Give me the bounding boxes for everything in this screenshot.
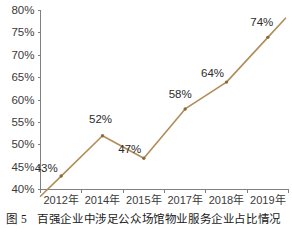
caption-number: 图 5 xyxy=(6,210,27,226)
y-tick-label: 65% xyxy=(11,71,34,83)
y-tick-label: 55% xyxy=(11,116,34,128)
data-series xyxy=(41,18,286,196)
data-label: 58% xyxy=(169,88,192,100)
data-labels: 43%52%47%58%64%74% xyxy=(35,16,274,174)
data-label: 47% xyxy=(118,143,141,155)
y-tick-label: 45% xyxy=(11,161,34,173)
y-tick-label: 80% xyxy=(11,4,34,16)
caption-text: 百强企业中涉足公众场馆物业服务企业占比情况 xyxy=(37,210,281,226)
x-tick-label: 2017年 xyxy=(167,193,202,206)
figure-caption: 图 5 百强企业中涉足公众场馆物业服务企业占比情况 xyxy=(0,206,292,229)
data-label: 43% xyxy=(35,162,58,174)
x-tick-labels: 2012年2014年2015年2017年2018年2019年 xyxy=(43,193,285,206)
data-point xyxy=(225,80,228,83)
data-point xyxy=(101,134,104,137)
x-tick-label: 2019年 xyxy=(250,193,285,206)
data-point xyxy=(183,107,186,110)
y-tick-label: 40% xyxy=(11,183,34,195)
figure-container: 40%45%50%55%60%65%70%75%80% 43%52%47%58%… xyxy=(0,0,292,229)
x-tick-label: 2015年 xyxy=(126,193,161,206)
x-tick-label: 2018年 xyxy=(209,193,244,206)
data-point xyxy=(59,174,62,177)
series-line xyxy=(41,18,286,196)
y-tick-label: 70% xyxy=(11,49,34,61)
x-axis xyxy=(41,190,289,194)
data-point xyxy=(266,36,269,39)
data-point xyxy=(142,156,145,159)
line-chart: 40%45%50%55%60%65%70%75%80% 43%52%47%58%… xyxy=(0,0,292,206)
data-label: 52% xyxy=(89,113,112,125)
x-tick-label: 2012年 xyxy=(43,193,78,206)
data-markers xyxy=(59,36,269,178)
chart-svg: 40%45%50%55%60%65%70%75%80% 43%52%47%58%… xyxy=(0,0,292,206)
x-tick-label: 2014年 xyxy=(85,193,120,206)
y-tick-label: 60% xyxy=(11,94,34,106)
y-tick-label: 75% xyxy=(11,26,34,38)
y-tick-label: 50% xyxy=(11,138,34,150)
data-label: 74% xyxy=(250,16,273,28)
data-label: 64% xyxy=(201,67,224,79)
